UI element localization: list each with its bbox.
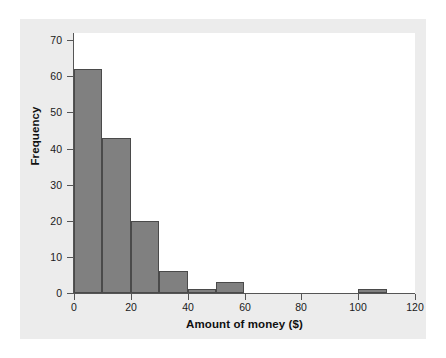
y-tick-label: 30	[50, 180, 62, 190]
x-tick-mark	[245, 294, 246, 300]
x-tick-mark	[358, 294, 359, 300]
x-tick-label: 80	[295, 302, 307, 313]
y-tick-label: 60	[50, 71, 62, 81]
y-tick-label: 20	[50, 216, 62, 226]
y-tick-label: 40	[50, 144, 62, 154]
histogram-bar	[216, 282, 244, 293]
histogram-bar	[159, 271, 187, 293]
x-tick-mark	[188, 294, 189, 300]
x-tick-label: 60	[239, 302, 251, 313]
y-axis-title: Frequency	[29, 96, 41, 176]
histogram-bar	[102, 138, 130, 293]
histogram-bar	[131, 221, 159, 293]
x-axis-title: Amount of money ($)	[74, 318, 415, 330]
x-tick-label: 120	[406, 302, 424, 313]
y-axis-line	[73, 33, 74, 294]
y-tick-label: 70	[50, 35, 62, 45]
histogram-figure: 010203040506070 020406080100120 Amount o…	[0, 0, 446, 358]
y-tick-label: 10	[50, 252, 62, 262]
x-tick-label: 20	[125, 302, 137, 313]
x-tick-mark	[415, 294, 416, 300]
x-tick-label: 40	[182, 302, 194, 313]
histogram-bar	[74, 69, 102, 293]
y-tick-label: 50	[50, 107, 62, 117]
x-tick-mark	[74, 294, 75, 300]
x-tick-label: 100	[349, 302, 367, 313]
x-axis-line	[73, 293, 415, 294]
x-tick-mark	[301, 294, 302, 300]
y-tick-label: 0	[56, 288, 62, 298]
x-tick-label: 0	[71, 302, 77, 313]
x-tick-mark	[131, 294, 132, 300]
